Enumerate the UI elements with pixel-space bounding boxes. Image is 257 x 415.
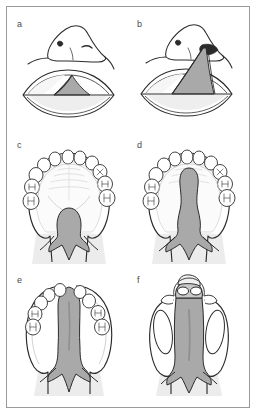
tooth-premaxilla-left: [178, 287, 189, 295]
panel-e-unilateral-complete-cleft: [10, 272, 128, 400]
panel-label-f: f: [137, 276, 140, 285]
left-nostril: [175, 40, 180, 45]
right-nostril: [82, 46, 92, 48]
figure-root: a: [0, 0, 257, 415]
vomer-ridge: [189, 310, 190, 360]
tooth-premaxilla-right: [191, 287, 202, 295]
tooth: [74, 151, 86, 165]
panel-label-d: d: [137, 141, 142, 150]
tooth: [54, 284, 66, 297]
panel-label-c: c: [17, 141, 22, 150]
panel-a-cleft-lip-incomplete: [10, 12, 128, 140]
left-nostril: [57, 41, 62, 46]
nose-outline: [166, 25, 224, 61]
panel-label-a: a: [17, 20, 22, 29]
tooth: [83, 294, 96, 308]
nose-outline: [48, 26, 106, 62]
left-lip-element: [161, 295, 174, 304]
right-lip-element: [204, 295, 217, 304]
tooth: [62, 150, 74, 164]
right-nasolabial-crease: [105, 57, 114, 69]
left-nasolabial-crease: [28, 58, 48, 64]
panel-b-cleft-lip-complete: [130, 12, 248, 140]
tooth: [193, 151, 205, 165]
panel-c-cleft-soft-palate: [10, 140, 128, 268]
tooth: [181, 150, 193, 164]
vomer-ridge: [69, 302, 70, 350]
panel-f-bilateral-cleft-premaxilla: [130, 272, 248, 400]
left-nasolabial-crease: [146, 57, 166, 63]
panel-label-e: e: [17, 276, 22, 285]
right-nasolabial-crease: [223, 56, 232, 68]
columella: [188, 48, 191, 59]
columella: [70, 48, 73, 60]
panel-d-cleft-hard-palate: [130, 140, 248, 268]
panel-label-b: b: [137, 20, 142, 29]
